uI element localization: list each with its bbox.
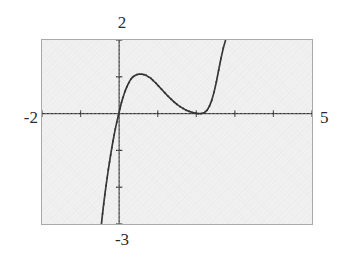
x-axis-dot — [147, 113, 148, 114]
axis-label-right: 5 — [320, 109, 338, 126]
y-axis-tick — [121, 223, 122, 224]
y-axis-tick — [116, 223, 117, 224]
y-axis-dot — [119, 168, 120, 169]
y-axis-dot — [119, 74, 120, 75]
y-axis-dot — [119, 86, 120, 87]
y-axis-dot — [119, 161, 120, 162]
y-axis-dot — [119, 82, 120, 83]
x-axis-dot — [300, 113, 301, 114]
x-axis-dot — [53, 113, 54, 114]
x-axis-dot — [166, 113, 167, 114]
curve-point — [225, 40, 227, 41]
y-axis-dot — [119, 169, 120, 170]
x-axis-dot — [281, 113, 282, 114]
axis-label-top: 2 — [106, 14, 138, 31]
x-axis-dot — [162, 113, 163, 114]
x-axis-dot — [285, 113, 286, 114]
x-axis-dot — [305, 113, 306, 114]
y-axis-dot — [119, 138, 120, 139]
x-axis-tick — [196, 110, 197, 111]
x-axis-tick — [80, 113, 81, 114]
y-axis-dot — [119, 213, 120, 214]
x-axis-tick — [42, 114, 43, 115]
x-axis-dot — [233, 113, 234, 114]
y-axis-dot — [119, 170, 120, 171]
y-axis-dot — [119, 134, 120, 135]
x-axis-dot — [261, 113, 262, 114]
x-axis-tick — [42, 110, 43, 111]
x-axis-dot — [276, 113, 277, 114]
x-axis-dot — [82, 113, 83, 114]
x-axis-dot — [242, 113, 243, 114]
x-axis-dot — [114, 113, 115, 114]
x-axis-dot — [146, 113, 147, 114]
y-axis-dot — [119, 124, 120, 125]
y-axis-dot — [119, 140, 120, 141]
y-axis-tick — [121, 40, 122, 41]
y-axis-dot — [119, 128, 120, 129]
y-axis-dot — [119, 177, 120, 178]
y-axis-dot — [119, 65, 120, 66]
y-axis-tick — [116, 40, 117, 41]
graph-figure: 2 -2 5 -3 — [0, 0, 338, 264]
x-axis-tick — [42, 116, 43, 117]
y-axis-dot — [119, 83, 120, 84]
x-axis-tick — [42, 113, 43, 114]
x-axis-dot — [280, 113, 281, 114]
x-axis-tick — [157, 112, 158, 113]
x-axis-tick — [80, 112, 81, 113]
x-axis-dot — [181, 113, 182, 114]
y-axis-dot — [119, 214, 120, 215]
y-axis-dot — [119, 206, 120, 207]
y-axis-dot — [119, 174, 120, 175]
x-axis-dot — [91, 113, 92, 114]
y-axis-dot — [119, 70, 120, 71]
y-axis-dot — [119, 121, 120, 122]
x-axis-dot — [102, 113, 103, 114]
x-axis-dot — [163, 113, 164, 114]
x-axis-dot — [177, 113, 178, 114]
y-axis-dot — [119, 210, 120, 211]
y-axis-dot — [119, 130, 120, 131]
x-axis-tick — [234, 112, 235, 113]
x-axis-dot — [238, 113, 239, 114]
x-axis-dot — [237, 113, 238, 114]
y-axis-dot — [119, 97, 120, 98]
x-axis-dot — [131, 113, 132, 114]
y-axis-dot — [119, 43, 120, 44]
x-axis-dot — [304, 113, 305, 114]
y-axis-tick — [120, 40, 121, 41]
x-axis-dot — [271, 113, 272, 114]
axis-label-bottom: -3 — [106, 231, 138, 248]
y-axis-dot — [119, 91, 120, 92]
y-axis-dot — [119, 61, 120, 62]
x-axis-tick — [157, 114, 158, 115]
x-axis-dot — [210, 113, 211, 114]
x-axis-dot — [279, 113, 280, 114]
y-axis-dot — [119, 101, 120, 102]
x-axis-dot — [92, 113, 93, 114]
x-axis-dot — [72, 113, 73, 114]
x-axis-dot — [84, 113, 85, 114]
y-axis-dot — [119, 144, 120, 145]
x-axis-dot — [250, 113, 251, 114]
x-axis-tick — [311, 116, 312, 117]
y-axis-dot — [119, 184, 120, 185]
y-axis-tick — [120, 187, 121, 188]
x-axis-dot — [143, 113, 144, 114]
x-axis-tick — [273, 116, 274, 117]
y-axis-dot — [119, 172, 120, 173]
y-axis-dot — [119, 73, 120, 74]
x-axis-dot — [60, 113, 61, 114]
x-axis-dot — [99, 113, 100, 114]
x-axis-dot — [47, 113, 48, 114]
y-axis-dot — [119, 136, 120, 137]
x-axis-dot — [165, 113, 166, 114]
y-axis-dot — [119, 162, 120, 163]
y-axis-tick — [121, 150, 122, 151]
x-axis-dot — [216, 113, 217, 114]
y-axis-tick — [117, 76, 118, 77]
x-axis-dot — [248, 113, 249, 114]
x-axis-dot — [309, 113, 310, 114]
x-axis-dot — [104, 113, 105, 114]
